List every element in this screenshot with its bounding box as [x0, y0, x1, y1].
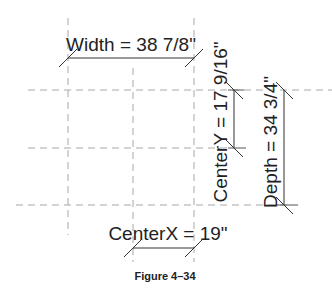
- dimension-diagram: Width = 38 7/8" CenterY = 17 9/16" Depth…: [0, 0, 332, 294]
- width-label: Width = 38 7/8": [66, 34, 196, 55]
- center-y-label: CenterY = 17 9/16": [210, 41, 231, 202]
- width-dimension: Width = 38 7/8": [59, 34, 203, 67]
- depth-label: Depth = 34 3/4": [260, 76, 281, 208]
- center-y-dimension: CenterY = 17 9/16": [210, 41, 246, 202]
- center-x-dimension: CenterX = 19": [108, 223, 227, 257]
- center-x-label: CenterX = 19": [108, 223, 227, 244]
- depth-dimension: Depth = 34 3/4": [260, 76, 298, 214]
- figure-caption: Figure 4–34: [134, 270, 196, 282]
